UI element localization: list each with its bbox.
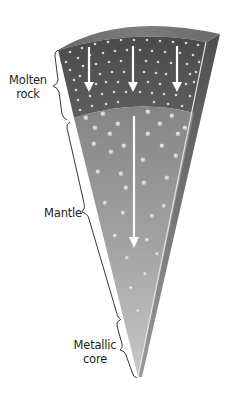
label-molten-rock: Molten rock bbox=[4, 73, 52, 101]
label-mantle: Mantle bbox=[40, 206, 86, 220]
label-line: Mantle bbox=[40, 206, 86, 220]
label-line: Metallic bbox=[68, 338, 122, 352]
label-line: core bbox=[68, 352, 122, 366]
label-line: rock bbox=[4, 87, 52, 101]
label-metallic-core: Metallic core bbox=[68, 338, 122, 366]
label-line: Molten bbox=[4, 73, 52, 87]
